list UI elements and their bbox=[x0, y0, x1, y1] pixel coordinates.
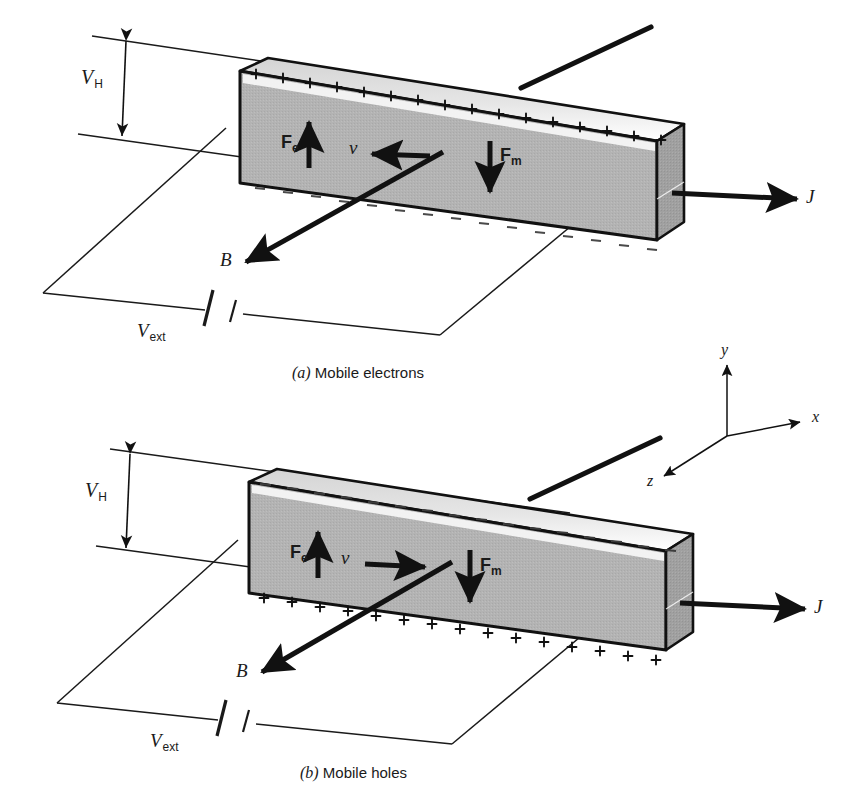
panel-b-caption: (b) Mobile holes bbox=[300, 764, 407, 782]
axis-label-x: x bbox=[812, 408, 819, 426]
axis-z-arrow bbox=[664, 436, 727, 476]
axis-label-y: y bbox=[721, 341, 728, 359]
force-magnetic-label-b: Fm bbox=[480, 555, 502, 576]
axis-label-z: z bbox=[647, 472, 653, 490]
velocity-arrow-a bbox=[372, 154, 430, 156]
force-magnetic-label-a: Fm bbox=[500, 145, 522, 166]
current-density-arrow-b bbox=[680, 603, 805, 609]
battery-short-plate-a bbox=[230, 300, 236, 322]
force-electric-label-b: Fe bbox=[290, 542, 308, 563]
circuit-bottom-right-b bbox=[256, 724, 452, 744]
panel-a bbox=[43, 27, 797, 335]
external-voltage-label-a: Vext bbox=[137, 320, 165, 342]
panel-b bbox=[57, 438, 805, 744]
battery-long-plate-b bbox=[217, 700, 226, 736]
coordinate-axes bbox=[664, 365, 800, 476]
circuit-bottom-left-b bbox=[57, 703, 218, 720]
circuit-left-wire-a bbox=[43, 128, 226, 293]
current-density-label-b: J bbox=[814, 596, 822, 618]
current-density-label-a: J bbox=[806, 186, 814, 208]
circuit-bottom-left-a bbox=[43, 293, 205, 310]
velocity-arrow-b bbox=[365, 564, 425, 567]
circuit-left-wire-b bbox=[57, 540, 238, 703]
velocity-label-a: v bbox=[349, 137, 357, 159]
panel-a-caption: (a) Mobile electrons bbox=[292, 364, 424, 382]
figure-canvas: VH Vext Fe v Fm B J (a) Mobile electrons… bbox=[0, 0, 852, 807]
battery-long-plate-a bbox=[204, 290, 213, 326]
battery-symbol-a bbox=[204, 290, 236, 326]
axis-x-arrow bbox=[727, 422, 800, 436]
magnetic-field-label-a: B bbox=[220, 249, 232, 271]
battery-short-plate-b bbox=[243, 710, 249, 732]
hall-voltage-arrow-a bbox=[122, 41, 126, 136]
hall-effect-figure bbox=[0, 0, 852, 807]
external-voltage-label-b: Vext bbox=[150, 730, 178, 752]
lead-wire-b bbox=[530, 438, 660, 499]
battery-symbol-b bbox=[217, 700, 249, 736]
hall-voltage-label-a: VH bbox=[81, 66, 102, 89]
velocity-label-b: v bbox=[341, 547, 349, 569]
hall-voltage-arrow-b bbox=[126, 454, 130, 548]
force-electric-label-a: Fe bbox=[281, 132, 299, 153]
circuit-bottom-right-a bbox=[243, 314, 440, 335]
hall-voltage-label-b: VH bbox=[85, 479, 106, 502]
lead-wire-a bbox=[521, 27, 651, 88]
magnetic-field-label-b: B bbox=[236, 660, 248, 682]
current-density-arrow-a bbox=[672, 193, 797, 199]
